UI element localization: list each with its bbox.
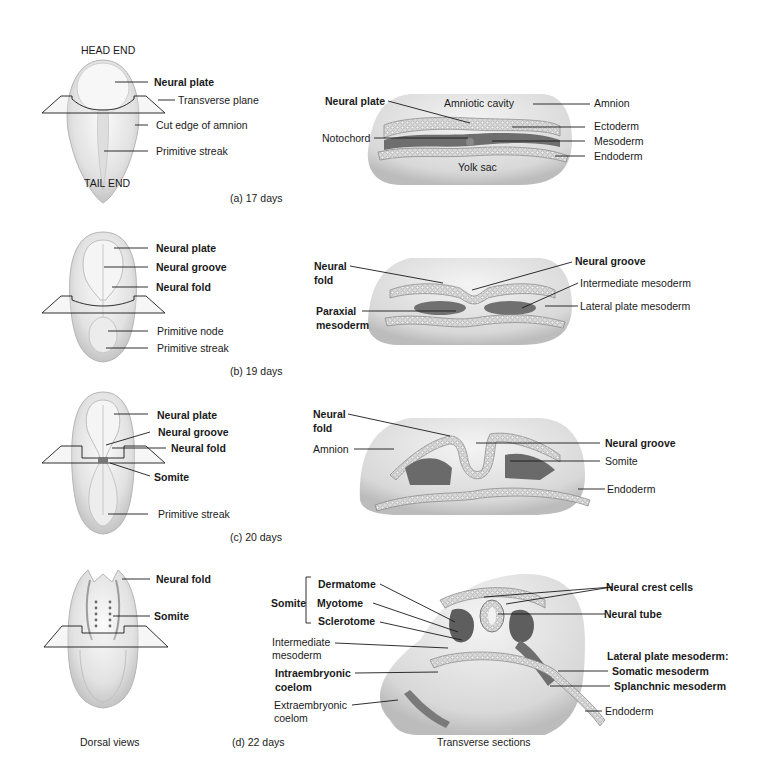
somite-bracket bbox=[306, 577, 311, 623]
caption-transverse-sections: Transverse sections bbox=[437, 736, 531, 748]
label-as-endoderm: Endoderm bbox=[594, 150, 642, 163]
label-extraembryonic-coelom-1: Extraembryonic bbox=[274, 699, 347, 712]
label-c-neural-fold: Neural fold bbox=[171, 442, 226, 455]
label-neural-tube: Neural tube bbox=[604, 608, 662, 621]
label-c-somite: Somite bbox=[154, 471, 189, 484]
label-mesoderm: Mesoderm bbox=[594, 135, 644, 148]
label-tail-end: TAIL END bbox=[84, 177, 130, 190]
label-cs-neural-fold-2: fold bbox=[313, 422, 332, 435]
label-dermatome: Dermatome bbox=[318, 578, 376, 591]
embryo-19-days-dorsal bbox=[42, 232, 165, 362]
label-cs-somite: Somite bbox=[605, 455, 638, 468]
label-ds-intermediate-mesoderm-1: Intermediate bbox=[272, 636, 330, 649]
label-primitive-node: Primitive node bbox=[157, 325, 224, 338]
label-cs-neural-fold-1: Neural bbox=[313, 408, 346, 421]
label-d-somite: Somite bbox=[154, 610, 189, 623]
label-myotome: Myotome bbox=[317, 597, 363, 610]
label-splanchnic-mesoderm: Splanchnic mesoderm bbox=[614, 680, 726, 693]
label-notochord: Notochord bbox=[322, 132, 370, 145]
label-ds-endoderm: Endoderm bbox=[605, 705, 653, 718]
label-b-neural-plate: Neural plate bbox=[156, 242, 216, 255]
label-bs-neural-groove: Neural groove bbox=[575, 255, 646, 268]
label-a-neural-plate: Neural plate bbox=[154, 76, 214, 89]
caption-dorsal-views: Dorsal views bbox=[80, 736, 140, 748]
label-amniotic-cavity: Amniotic cavity bbox=[444, 97, 514, 110]
caption-a-17-days: (a) 17 days bbox=[230, 192, 283, 204]
label-ectoderm: Ectoderm bbox=[594, 120, 639, 133]
label-paraxial-mesoderm-1: Paraxial bbox=[316, 305, 356, 318]
label-a-cut-edge-of-amnion: Cut edge of amnion bbox=[156, 119, 248, 132]
label-as-amnion: Amnion bbox=[594, 97, 630, 110]
caption-c-20-days: (c) 20 days bbox=[230, 531, 282, 543]
label-b-neural-fold: Neural fold bbox=[156, 281, 211, 294]
label-neural-crest-cells: Neural crest cells bbox=[606, 581, 693, 594]
label-extraembryonic-coelom-2: coelom bbox=[274, 712, 308, 725]
label-as-neural-plate: Neural plate bbox=[325, 95, 385, 108]
label-paraxial-mesoderm-2: mesoderm bbox=[316, 319, 369, 332]
label-intermediate-mesoderm: Intermediate mesoderm bbox=[580, 277, 691, 290]
label-somatic-mesoderm: Somatic mesoderm bbox=[612, 665, 709, 678]
label-cs-endoderm: Endoderm bbox=[607, 483, 655, 496]
label-lateral-plate-mesoderm: Lateral plate mesoderm bbox=[580, 300, 690, 313]
embryo-22-days-dorsal bbox=[44, 570, 168, 708]
label-c-primitive-streak: Primitive streak bbox=[158, 508, 230, 521]
label-c-neural-plate: Neural plate bbox=[157, 409, 217, 422]
label-cs-neural-groove: Neural groove bbox=[605, 437, 676, 450]
label-b-neural-groove: Neural groove bbox=[156, 261, 227, 274]
label-intraembryonic-coelom-2: coelom bbox=[275, 681, 312, 694]
label-somite-group: Somite bbox=[271, 597, 306, 610]
label-head-end: HEAD END bbox=[81, 44, 135, 57]
label-a-transverse-plane: Transverse plane bbox=[178, 94, 259, 107]
label-cs-amnion: Amnion bbox=[313, 443, 349, 456]
embryo-20-days-dorsal bbox=[42, 392, 165, 534]
label-b-primitive-streak: Primitive streak bbox=[157, 342, 229, 355]
label-yolk-sac: Yolk sac bbox=[458, 161, 497, 174]
section-22-days bbox=[380, 574, 605, 735]
label-bs-neural-fold-1: Neural bbox=[314, 260, 347, 273]
caption-b-19-days: (b) 19 days bbox=[230, 365, 283, 377]
section-19-days bbox=[368, 258, 572, 345]
label-lateral-plate-mesoderm-heading: Lateral plate mesoderm: bbox=[607, 650, 728, 663]
label-ds-intermediate-mesoderm-2: mesoderm bbox=[272, 649, 322, 662]
caption-d-22-days: (d) 22 days bbox=[232, 736, 285, 748]
section-20-days bbox=[360, 418, 590, 515]
label-intraembryonic-coelom-1: Intraembryonic bbox=[275, 667, 351, 680]
label-d-neural-fold: Neural fold bbox=[156, 573, 211, 586]
label-sclerotome: Sclerotome bbox=[318, 615, 375, 628]
label-a-primitive-streak: Primitive streak bbox=[156, 145, 228, 158]
label-bs-neural-fold-2: fold bbox=[314, 274, 333, 287]
label-c-neural-groove: Neural groove bbox=[158, 426, 229, 439]
